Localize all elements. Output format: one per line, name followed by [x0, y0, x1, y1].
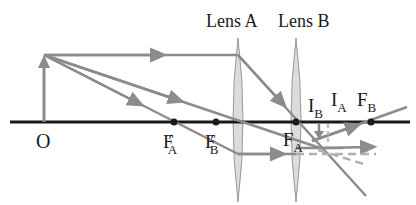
rays: [44, 55, 407, 196]
ia-label: IA: [331, 89, 347, 115]
object-label: O: [36, 130, 50, 152]
point-fb-prime: [213, 119, 220, 126]
ib-label: IB: [308, 95, 323, 121]
fb-label: FB: [357, 89, 377, 115]
lens-a-label: Lens A: [206, 11, 258, 31]
lens-b-label: Lens B: [278, 11, 330, 31]
fb-prime-label: F′B: [205, 131, 219, 157]
object-arrow: [38, 55, 50, 122]
point-fa-prime: [171, 119, 178, 126]
ray-diagram: Lens A Lens B O F′A F′B FA IB IA FB: [0, 0, 416, 205]
point-fb: [368, 119, 375, 126]
point-fa: [293, 119, 300, 126]
fa-prime-label: F′A: [163, 131, 178, 157]
